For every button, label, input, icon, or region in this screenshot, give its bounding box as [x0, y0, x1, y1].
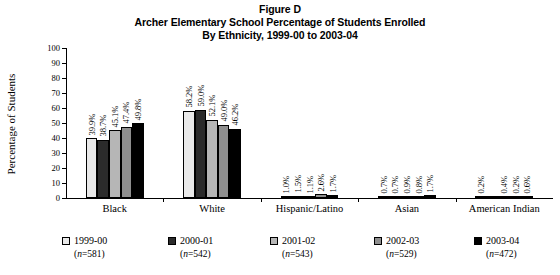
y-axis-title-label: Percentage of Students	[5, 73, 17, 174]
legend-label: 2002-03	[386, 236, 419, 246]
bar-value-label: 1.5%	[294, 175, 303, 193]
y-tick-mark	[62, 198, 66, 199]
bar[interactable]	[218, 125, 230, 199]
legend-label: 2001-02	[282, 236, 315, 246]
bar-column[interactable]: 59.0%	[195, 48, 207, 198]
bar[interactable]	[499, 196, 511, 198]
y-tick-label: 80	[52, 74, 61, 83]
legend-item[interactable]: 2000-01(n=542)	[168, 236, 213, 259]
bar-value-label: 47.4%	[122, 102, 131, 124]
y-tick-label: 70	[52, 89, 61, 98]
bar-group: 0.2%0.4%0.2%0.6%	[475, 48, 533, 198]
bar[interactable]	[424, 195, 436, 198]
y-tick-mark	[62, 168, 66, 169]
bar[interactable]	[315, 194, 327, 198]
legend-item[interactable]: 1999-00(n=581)	[62, 236, 107, 259]
bar[interactable]	[475, 196, 487, 198]
legend-item[interactable]: 2003-04(n=472)	[474, 236, 519, 259]
bar-column[interactable]: 45.1%	[109, 48, 121, 198]
legend-swatch	[168, 237, 176, 245]
bar-column[interactable]: 2.6%	[315, 48, 327, 198]
bar-value-label: 1.0%	[282, 176, 291, 194]
bar[interactable]	[413, 196, 425, 198]
bar[interactable]	[304, 196, 316, 198]
legend-item[interactable]: 2001-02(n=543)	[270, 236, 315, 259]
bar[interactable]	[292, 196, 304, 198]
title-line-1: Figure D	[0, 3, 560, 16]
y-tick-label: 0	[56, 194, 60, 203]
y-tick-mark	[62, 78, 66, 79]
bar-group: 1.0%1.5%1.1%2.6%1.7%	[281, 48, 339, 198]
y-tick-label: 100	[47, 44, 60, 53]
y-tick-label: 20	[52, 164, 61, 173]
bar[interactable]	[327, 195, 339, 198]
bar[interactable]	[86, 138, 98, 198]
bar[interactable]	[121, 127, 133, 198]
bar[interactable]	[109, 130, 121, 198]
bar-value-label: 39.9%	[87, 113, 96, 135]
bar-column[interactable]: 0.6%	[522, 48, 534, 198]
bar[interactable]	[132, 123, 144, 198]
y-tick-label: 50	[52, 119, 61, 128]
bar-column[interactable]: 1.1%	[304, 48, 316, 198]
bar-column[interactable]: 38.7%	[97, 48, 109, 198]
bar[interactable]	[378, 196, 390, 198]
group-separator-tick	[163, 198, 164, 202]
bar[interactable]	[487, 196, 499, 198]
legend-label: 1999-00	[74, 236, 107, 246]
bar-column[interactable]: 1.7%	[424, 48, 436, 198]
bar-column[interactable]	[487, 48, 499, 198]
bar-column[interactable]: 0.2%	[510, 48, 522, 198]
bar-value-label: 49.0%	[219, 100, 228, 122]
bar-column[interactable]: 47.4%	[121, 48, 133, 198]
group-separator-tick	[358, 198, 359, 202]
x-axis-category-label: Asian	[358, 203, 455, 214]
bar-column[interactable]: 49.0%	[218, 48, 230, 198]
chart-title: Figure D Archer Elementary School Percen…	[0, 3, 560, 42]
bar-column[interactable]: 1.5%	[292, 48, 304, 198]
bar-column[interactable]: 0.2%	[475, 48, 487, 198]
legend-swatch	[270, 237, 278, 245]
bar-column[interactable]: 1.0%	[281, 48, 293, 198]
bar-value-label: 1.1%	[305, 176, 314, 194]
bar-group: 58.2%59.0%52.1%49.0%46.2%	[183, 48, 241, 198]
bar[interactable]	[183, 111, 195, 198]
bar-value-label: 46.2%	[231, 104, 240, 126]
bar-column[interactable]: 58.2%	[183, 48, 195, 198]
y-tick-mark	[62, 63, 66, 64]
y-tick-label: 90	[52, 59, 61, 68]
bar-value-label: 58.2%	[185, 86, 194, 108]
bar[interactable]	[229, 129, 241, 198]
bar-value-label: 1.7%	[426, 175, 435, 193]
bar-column[interactable]: 49.8%	[132, 48, 144, 198]
bar[interactable]	[390, 196, 402, 198]
bar-column[interactable]: 52.1%	[206, 48, 218, 198]
bar-column[interactable]: 1.7%	[327, 48, 339, 198]
bar[interactable]	[401, 196, 413, 198]
bar-column[interactable]: 39.9%	[86, 48, 98, 198]
bar-column[interactable]: 0.9%	[401, 48, 413, 198]
bar[interactable]	[510, 196, 522, 198]
bar-value-label: 0.9%	[403, 176, 412, 194]
bar-value-label: 2.6%	[317, 173, 326, 191]
bar-column[interactable]: 0.4%	[499, 48, 511, 198]
bar-value-label: 59.0%	[196, 85, 205, 107]
bar[interactable]	[522, 196, 534, 198]
bar-column[interactable]: 0.8%	[413, 48, 425, 198]
bar[interactable]	[206, 120, 218, 198]
bar-column[interactable]: 0.7%	[390, 48, 402, 198]
bar-column[interactable]: 0.7%	[378, 48, 390, 198]
y-tick-mark	[62, 123, 66, 124]
x-axis-category-label: Hispanic/Latino	[261, 203, 358, 214]
bar-column[interactable]: 46.2%	[229, 48, 241, 198]
title-line-3: By Ethnicity, 1999-00 to 2003-04	[0, 29, 560, 42]
legend-item[interactable]: 2002-03(n=529)	[374, 236, 419, 259]
bar-value-label: 0.7%	[391, 176, 400, 194]
bar-value-label: 38.7%	[99, 115, 108, 137]
bar[interactable]	[281, 196, 293, 198]
bar[interactable]	[97, 140, 109, 198]
x-axis-line	[66, 198, 553, 199]
bar[interactable]	[195, 110, 207, 199]
legend-swatch	[374, 237, 382, 245]
y-tick-label: 60	[52, 104, 61, 113]
